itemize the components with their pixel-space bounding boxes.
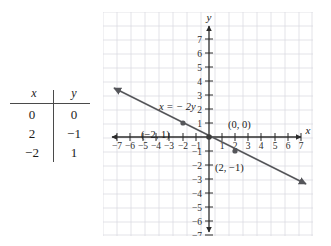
table-cell-y: 0 [58, 107, 90, 123]
table-cell-x: 2 [16, 126, 48, 142]
point-marker-2-neg1 [232, 148, 237, 153]
point-marker-0-0 [206, 134, 212, 140]
x-tick-label: 5 [273, 141, 278, 151]
x-tick-label: 6 [286, 141, 291, 151]
table-header-x: x [22, 86, 46, 101]
x-tick-label: 4 [259, 141, 264, 151]
table-cell-y: 1 [58, 145, 90, 161]
figure-root: x y 0 0 2 −1 −2 1 [0, 0, 331, 246]
x-tick-label: 7 [299, 141, 304, 151]
grid-lines [103, 12, 313, 236]
table-row: −2 1 [8, 145, 92, 164]
y-tick-label: 7 [197, 35, 202, 45]
x-axis-tick-labels: −7 −6 −5 −4 −3 −2 −1 1 2 3 4 5 6 7 [112, 141, 304, 151]
y-tick-label: −2 [192, 161, 202, 171]
equation-label: x = − 2y [158, 101, 196, 112]
x-tick-label: −6 [125, 141, 135, 151]
table-row: 0 0 [8, 107, 92, 126]
table-header-row: x y [8, 86, 92, 103]
point-label-0-0: (0, 0) [228, 119, 251, 131]
table-cell-x: 0 [16, 107, 48, 123]
y-tick-label: −7 [192, 231, 202, 236]
x-axis-label: x [305, 124, 311, 136]
x-tick-label: −7 [112, 141, 122, 151]
x-tick-label: −3 [164, 141, 174, 151]
table-body: 0 0 2 −1 −2 1 [8, 107, 92, 164]
value-table: x y 0 0 2 −1 −2 1 [8, 86, 92, 166]
y-tick-label: 6 [197, 49, 202, 59]
point-label-neg2-1: (−2, 1) [141, 129, 170, 141]
y-axis-label: y [206, 12, 212, 23]
y-tick-label: −1 [192, 147, 202, 157]
point-label-2-neg1: (2, −1) [215, 162, 244, 174]
y-tick-label: 5 [197, 63, 202, 73]
point-marker-neg2-1 [180, 120, 185, 125]
x-tick-label: −2 [178, 141, 188, 151]
table-row: 2 −1 [8, 126, 92, 145]
x-tick-label: −5 [138, 141, 148, 151]
coordinate-graph: −7 −6 −5 −4 −3 −2 −1 1 2 3 4 5 6 7 7 6 5… [103, 12, 313, 236]
y-tick-label: 4 [197, 77, 202, 87]
table-cell-x: −2 [16, 145, 48, 161]
y-tick-label: −4 [192, 189, 202, 199]
table-header-y: y [62, 86, 86, 101]
y-tick-label: −6 [192, 217, 202, 227]
y-tick-label: −5 [192, 203, 202, 213]
table-cell-y: −1 [58, 126, 90, 142]
y-tick-label: −3 [192, 175, 202, 185]
x-tick-label: −4 [151, 141, 161, 151]
x-tick-label: 3 [246, 141, 251, 151]
y-tick-label: 1 [197, 119, 202, 129]
y-tick-label: 3 [197, 91, 202, 101]
y-tick-label: 2 [197, 105, 202, 115]
table-horizontal-rule [10, 103, 90, 104]
